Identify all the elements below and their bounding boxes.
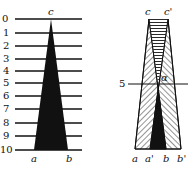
scale-label-5: 5 bbox=[3, 77, 9, 88]
scale-label-9: 9 bbox=[3, 130, 9, 141]
scale-label-4: 4 bbox=[3, 65, 9, 76]
base-label-a: a bbox=[132, 153, 138, 164]
base-label-b: b bbox=[66, 153, 72, 164]
scale-label-1: 1 bbox=[3, 27, 9, 38]
diagram-canvas: 0 1 2 3 4 5 6 7 8 9 10 c a b 5 bbox=[0, 0, 191, 171]
scale-label-3: 3 bbox=[3, 53, 9, 64]
left-figure: 0 1 2 3 4 5 6 7 8 9 10 c a b bbox=[0, 6, 82, 164]
base-label-b: b bbox=[163, 153, 169, 164]
scale-label-0: 0 bbox=[2, 13, 8, 24]
scale-label-10: 10 bbox=[0, 144, 13, 155]
angle-label-alpha: α bbox=[161, 72, 168, 83]
scale-label-7: 7 bbox=[3, 103, 9, 114]
level-label-5: 5 bbox=[119, 78, 125, 89]
scale-label-2: 2 bbox=[3, 40, 9, 51]
scale-label-8: 8 bbox=[3, 117, 9, 128]
apex-label-c-prime: c' bbox=[164, 6, 172, 17]
base-label-a: a bbox=[31, 153, 37, 164]
scale-label-6: 6 bbox=[3, 90, 9, 101]
apex-label-c: c bbox=[48, 6, 54, 17]
black-triangle bbox=[34, 19, 68, 150]
base-label-b-prime: b' bbox=[177, 153, 186, 164]
right-figure: 5 α c c' a a' b b' bbox=[119, 6, 188, 164]
base-label-a-prime: a' bbox=[145, 153, 154, 164]
apex-label-c: c bbox=[145, 6, 151, 17]
